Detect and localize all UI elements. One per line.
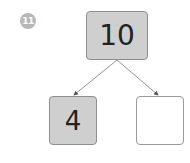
part-box-left: 4 (49, 96, 97, 145)
arrow-left (74, 60, 117, 95)
part-box-right-answer[interactable] (136, 96, 184, 145)
whole-box: 10 (86, 11, 148, 60)
arrow-right (117, 60, 158, 95)
